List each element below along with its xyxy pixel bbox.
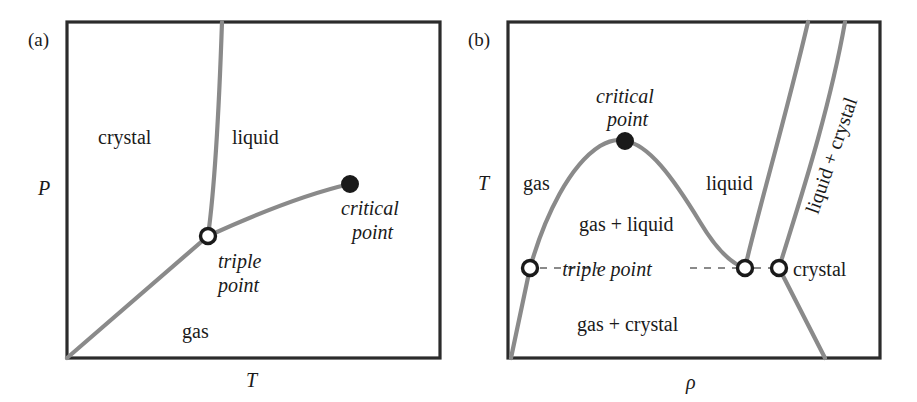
panel-b-triple-point-marker-liquid bbox=[738, 261, 753, 276]
panel-b-tag: (b) bbox=[468, 29, 490, 51]
panel-b-triple-point-label: triple point bbox=[562, 258, 652, 281]
panel-b-region-liquid-crystal: liquid + crystal bbox=[801, 94, 862, 217]
panel-b-x-axis-label: ρ bbox=[685, 371, 696, 394]
panel-a-critical-point-label-line2: point bbox=[350, 221, 394, 244]
panel-b-crystal-branch-curve bbox=[779, 268, 825, 358]
panel-b-critical-point-label-line1: critical bbox=[596, 85, 654, 107]
panel-a-triple-point-marker bbox=[201, 229, 216, 244]
panel-a-y-axis-label: P bbox=[37, 177, 50, 199]
panel-a-critical-point-label-line1: critical bbox=[341, 197, 399, 219]
panel-a-region-crystal: crystal bbox=[98, 126, 152, 149]
panel-a-triple-point-label-line1: triple bbox=[218, 250, 261, 273]
panel-a-x-axis-label: T bbox=[246, 369, 259, 391]
panel-b-y-axis-label: T bbox=[478, 172, 491, 194]
panel-b-triple-point-marker-crystal bbox=[772, 261, 787, 276]
panel-b-region-gas: gas bbox=[523, 172, 550, 195]
panel-a-region-gas: gas bbox=[182, 320, 209, 343]
panel-b-critical-point-marker bbox=[617, 133, 633, 149]
panel-a-critical-point-marker bbox=[342, 176, 358, 192]
panel-b-region-gas-liquid: gas + liquid bbox=[579, 213, 674, 236]
panel-b-region-liquid: liquid bbox=[706, 172, 753, 195]
panel-a-region-liquid: liquid bbox=[232, 126, 279, 149]
panel-b-critical-point-label-line2: point bbox=[605, 108, 649, 131]
panel-b-liquidus-curve bbox=[745, 22, 808, 268]
panel-b-triple-point-marker-gas bbox=[523, 261, 538, 276]
panel-a: (a) crystal liquid gas triple point crit… bbox=[28, 22, 440, 391]
phase-diagram-figure: (a) crystal liquid gas triple point crit… bbox=[0, 0, 917, 402]
panel-b: (b) gas liquid gas + liquid gas + crysta… bbox=[468, 22, 880, 394]
panel-a-triple-point-label-line2: point bbox=[216, 274, 260, 297]
panel-b-region-crystal: crystal bbox=[793, 258, 847, 281]
panel-a-tag: (a) bbox=[28, 29, 49, 51]
panel-a-melting-curve bbox=[208, 22, 222, 236]
panel-b-region-gas-crystal: gas + crystal bbox=[577, 313, 679, 336]
panel-b-liquid-branch-curve bbox=[625, 141, 745, 268]
panel-a-vaporization-curve bbox=[208, 184, 350, 236]
